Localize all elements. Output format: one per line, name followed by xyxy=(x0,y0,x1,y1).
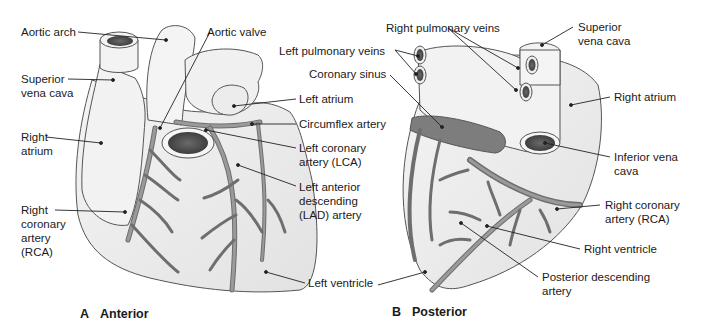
label-right-pulmonary-veins: Right pulmonary veins xyxy=(386,21,500,35)
panel-b-caption: BPosterior xyxy=(392,305,467,319)
left-atrium-shape xyxy=(212,85,248,115)
label-left-coronary-artery: Left coronary artery (LCA) xyxy=(299,141,366,169)
label-inferior-vena-cava: Inferior vena cava xyxy=(614,150,678,178)
label-right-atrium-b: Right atrium xyxy=(614,90,676,104)
label-aortic-valve: Aortic valve xyxy=(207,25,266,39)
label-left-atrium: Left atrium xyxy=(299,92,353,106)
anterior-heart xyxy=(46,26,317,292)
label-right-coronary-artery-b: Right coronary artery (RCA) xyxy=(605,198,680,226)
panel-b-letter: B xyxy=(392,305,412,319)
label-coronary-sinus: Coronary sinus xyxy=(309,67,386,81)
aortic-opening xyxy=(168,132,208,154)
label-aortic-arch: Aortic arch xyxy=(21,25,76,39)
label-superior-vena-cava-a: Superior vena cava xyxy=(21,72,73,100)
panel-a-title: Anterior xyxy=(100,307,149,321)
ivc-opening xyxy=(525,135,555,151)
label-superior-vena-cava-b: Superior vena cava xyxy=(578,20,630,48)
label-left-pulmonary-veins: Left pulmonary veins xyxy=(279,44,385,58)
label-circumflex-artery: Circumflex artery xyxy=(299,117,386,131)
label-right-ventricle: Right ventricle xyxy=(584,242,657,256)
label-left-anterior-descending: Left anterior descending (LAD) artery xyxy=(299,180,362,222)
label-left-ventricle: Left ventricle xyxy=(308,276,373,290)
label-right-coronary-artery-a: Right coronary artery (RCA) xyxy=(21,203,66,259)
posterior-heart xyxy=(378,27,610,290)
label-posterior-descending-artery: Posterior descending artery xyxy=(542,270,650,298)
panel-a-caption: AAnterior xyxy=(80,307,149,321)
panel-b-title: Posterior xyxy=(412,305,467,319)
heart-anatomy-diagram: Aortic arch Aortic valve Superior vena c… xyxy=(0,0,702,329)
label-right-atrium-a: Right atrium xyxy=(21,130,53,158)
panel-a-letter: A xyxy=(80,307,100,321)
